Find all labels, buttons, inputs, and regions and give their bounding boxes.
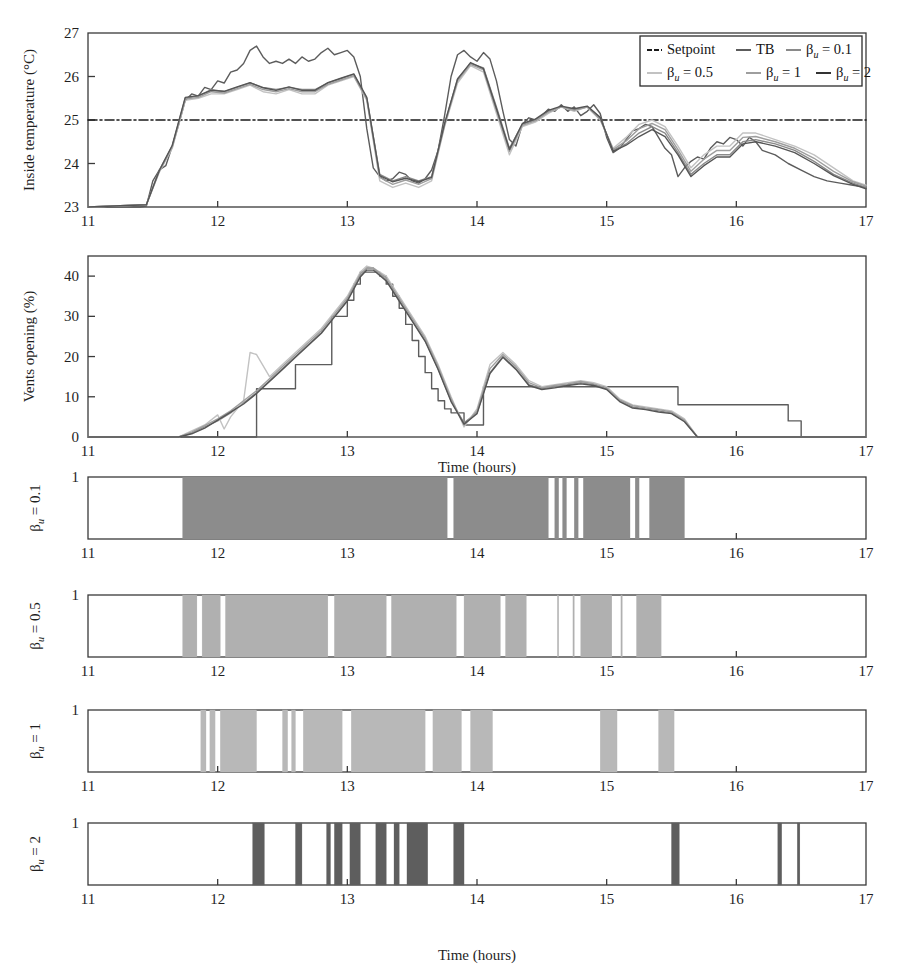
y-tick-label: 0 <box>72 429 80 445</box>
x-tick-label: 14 <box>470 213 486 229</box>
pulse-block <box>506 595 527 657</box>
x-tick-label: 15 <box>599 891 614 907</box>
x-tick-label: 12 <box>210 443 225 459</box>
pulse-block <box>573 595 574 657</box>
pulse-block <box>778 823 782 885</box>
pulse-block <box>391 595 456 657</box>
multi-panel-figure: 1112131415161723242526271112131415161701… <box>0 0 900 968</box>
pulse-block <box>376 823 386 885</box>
pulse-block <box>581 595 612 657</box>
x-tick-label: 16 <box>729 545 745 561</box>
x-tick-label: 15 <box>599 778 614 794</box>
panel4-y-axis-title: βu = 0.5 <box>27 602 46 649</box>
pulse-block <box>225 595 327 657</box>
x-tick-label: 17 <box>859 213 875 229</box>
x-tick-label: 16 <box>729 443 745 459</box>
pulse-block <box>253 823 265 885</box>
pulse-block <box>635 477 639 539</box>
pulse-block <box>464 595 500 657</box>
series--u-2 <box>88 270 866 437</box>
x-tick-label: 13 <box>340 891 355 907</box>
pulse-block <box>303 710 342 772</box>
x-tick-label: 11 <box>81 545 95 561</box>
pulse-block <box>334 595 386 657</box>
x-tick-label: 11 <box>81 891 95 907</box>
x-tick-label: 12 <box>210 213 225 229</box>
x-tick-label: 15 <box>599 213 614 229</box>
y-tick-label: 1 <box>72 587 80 603</box>
pulse-block <box>649 477 684 539</box>
figure-container: 1112131415161723242526271112131415161701… <box>0 0 900 968</box>
y-tick-label: 10 <box>64 389 79 405</box>
pulse-block <box>574 477 578 539</box>
x-tick-label: 12 <box>210 545 225 561</box>
panel2-y-axis-title: Vents opening (%) <box>21 291 38 403</box>
pulse-block <box>563 477 567 539</box>
pulse-block <box>292 710 296 772</box>
x-tick-label: 12 <box>210 663 225 679</box>
pulse-block <box>583 477 630 539</box>
x-tick-label: 11 <box>81 213 95 229</box>
x-tick-label: 15 <box>599 545 614 561</box>
legend-label-tb: TB <box>756 41 775 57</box>
x-tick-label: 13 <box>340 443 355 459</box>
legend: SetpointTBβu = 0.1βu = 0.5βu = 1βu = 2 <box>640 36 871 86</box>
x-tick-label: 15 <box>599 443 614 459</box>
x-tick-label: 12 <box>210 891 225 907</box>
panel-b1-group: 111213141516171 <box>72 702 875 794</box>
x-tick-label: 16 <box>729 213 745 229</box>
x-tick-label: 14 <box>470 443 486 459</box>
panel2-x-axis-title: Time (hours) <box>438 459 516 476</box>
y-tick-label: 25 <box>64 112 79 128</box>
y-tick-label: 1 <box>72 702 80 718</box>
panel-b05-group: 111213141516171 <box>72 587 875 679</box>
pulse-block <box>202 595 220 657</box>
x-tick-label: 17 <box>859 891 875 907</box>
x-tick-label: 16 <box>729 778 745 794</box>
pulse-block <box>210 710 215 772</box>
panel3-y-axis-title: βu = 0.1 <box>27 484 46 531</box>
x-tick-label: 15 <box>599 663 614 679</box>
y-tick-label: 23 <box>64 199 79 215</box>
panel6-x-axis-title: Time (hours) <box>438 947 516 964</box>
legend-label-setpoint: Setpoint <box>667 41 715 57</box>
pulse-block <box>557 595 558 657</box>
y-tick-label: 27 <box>64 25 80 41</box>
y-tick-label: 1 <box>72 469 80 485</box>
x-tick-label: 12 <box>210 778 225 794</box>
y-tick-label: 40 <box>64 268 79 284</box>
x-tick-label: 13 <box>340 778 355 794</box>
panel-b01-group: 111213141516171 <box>72 469 875 561</box>
panel5-y-axis-title: βu = 1 <box>27 723 46 759</box>
x-tick-label: 13 <box>340 663 355 679</box>
pulse-block <box>201 710 206 772</box>
pulse-block <box>621 595 622 657</box>
x-tick-label: 16 <box>729 663 745 679</box>
pulse-block <box>351 710 425 772</box>
panel6-y-axis-title: βu = 2 <box>27 836 46 872</box>
pulse-block <box>471 710 493 772</box>
pulse-block <box>394 823 399 885</box>
pulse-block <box>183 595 197 657</box>
pulse-block <box>454 477 549 539</box>
x-tick-label: 17 <box>859 778 875 794</box>
pulse-block <box>407 823 428 885</box>
pulse-block <box>220 710 256 772</box>
pulse-block <box>350 823 360 885</box>
x-tick-label: 16 <box>729 891 745 907</box>
x-tick-label: 17 <box>859 663 875 679</box>
y-tick-label: 26 <box>64 69 80 85</box>
x-tick-label: 14 <box>470 891 486 907</box>
x-tick-label: 11 <box>81 443 95 459</box>
panel1-y-axis-title: Inside temperature (°C) <box>21 49 38 191</box>
pulse-block <box>672 823 680 885</box>
panel-b2-frame <box>88 823 866 885</box>
x-tick-label: 13 <box>340 213 355 229</box>
x-tick-label: 17 <box>859 545 875 561</box>
y-tick-label: 24 <box>64 156 80 172</box>
pulse-block <box>433 710 462 772</box>
panel-vents-group: 11121314151617010203040 <box>64 256 874 459</box>
pulse-block <box>555 477 559 539</box>
x-tick-label: 13 <box>340 545 355 561</box>
pulse-block <box>334 823 342 885</box>
